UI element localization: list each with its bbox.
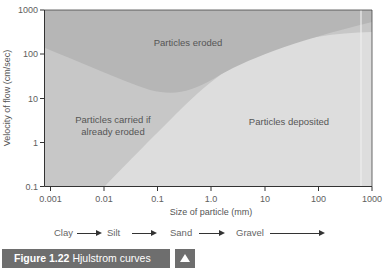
- label-carried-line1: Particles carried if: [75, 114, 151, 125]
- svg-text:0.1: 0.1: [151, 194, 164, 204]
- size-clay: Clay: [54, 227, 73, 238]
- svg-text:1000: 1000: [362, 194, 382, 204]
- arrow-right-icon: [199, 233, 223, 234]
- x-ticks: [51, 187, 373, 192]
- size-gravel: Gravel: [236, 227, 264, 238]
- svg-text:10: 10: [260, 194, 270, 204]
- y-tick-labels: 1000 100 10 1 0.1: [18, 5, 38, 192]
- size-silt: Silt: [107, 227, 120, 238]
- figure-caption: Figure 1.22Hjulstrom curves: [2, 249, 170, 268]
- svg-text:100: 100: [23, 49, 38, 59]
- scroll-up-button[interactable]: [175, 249, 195, 268]
- y-axis-title: Velocity of flow (cm/sec): [2, 50, 12, 147]
- arrow-right-icon: [77, 233, 100, 234]
- label-deposited: Particles deposited: [249, 116, 329, 127]
- figure-number: Figure 1.22: [14, 252, 69, 264]
- x-axis-title: Size of particle (mm): [170, 207, 253, 217]
- label-carried-line2: already eroded: [81, 126, 144, 137]
- svg-text:0.01: 0.01: [95, 194, 113, 204]
- arrow-right-icon: [270, 233, 323, 234]
- svg-text:1: 1: [33, 138, 38, 148]
- x-tick-labels: 0.001 0.01 0.1 1.0 10 100 1000: [39, 194, 382, 204]
- arrow-right-icon: [132, 233, 155, 234]
- size-class-scale: Clay Silt Sand Gravel: [0, 227, 390, 241]
- svg-text:1.0: 1.0: [205, 194, 218, 204]
- size-sand: Sand: [170, 227, 192, 238]
- svg-text:10: 10: [28, 94, 38, 104]
- svg-text:0.001: 0.001: [39, 194, 62, 204]
- svg-text:100: 100: [311, 194, 326, 204]
- figure-title: Hjulstrom curves: [72, 252, 150, 264]
- svg-text:0.1: 0.1: [25, 182, 38, 192]
- y-ticks: [40, 10, 45, 187]
- svg-text:1000: 1000: [18, 5, 38, 15]
- label-eroded: Particles eroded: [154, 37, 223, 48]
